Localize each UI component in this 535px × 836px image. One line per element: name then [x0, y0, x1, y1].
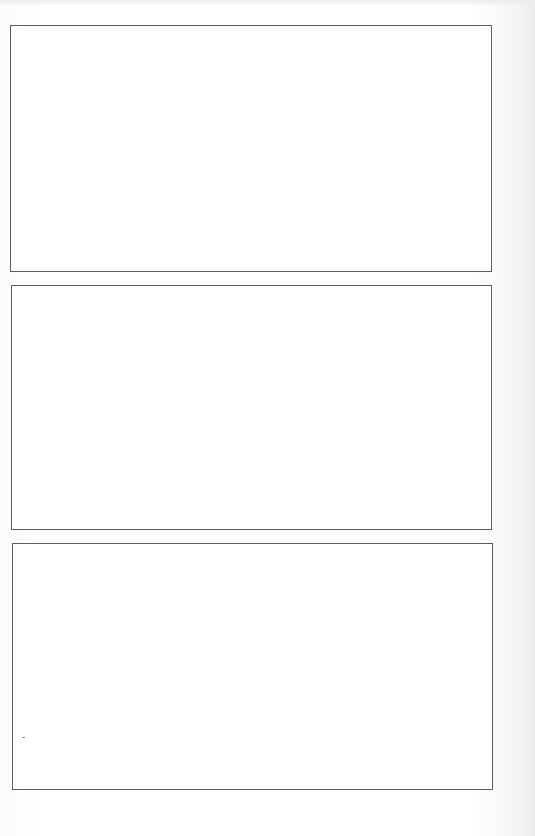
- empty-frame-2: [11, 285, 492, 530]
- frame-3-content: [13, 544, 14, 545]
- scan-speck: [22, 737, 25, 738]
- frame-2-content: [12, 286, 13, 287]
- empty-frame-3: [12, 543, 493, 790]
- frame-1-content: [11, 26, 12, 27]
- scan-top-edge: [0, 0, 535, 6]
- empty-frame-1: [10, 25, 492, 272]
